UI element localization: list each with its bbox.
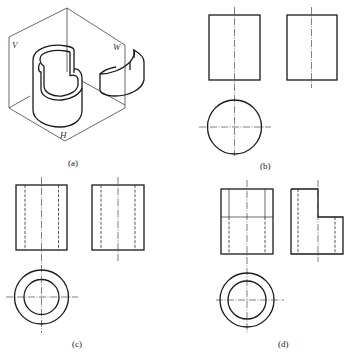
panel-c-three-views: (c) [6,177,144,349]
notched-cylinder [33,45,82,127]
plane-label-v: V [12,40,19,50]
panel-label-c: (c) [72,339,82,349]
panel-label-a: (a) [68,158,78,168]
panel-b-three-views: (b) [199,7,337,171]
side-view [291,189,343,254]
plane-label-h: H [59,130,67,140]
panel-d-three-views: (d) [216,180,343,349]
side-view [287,15,337,80]
panel-a-isometric: V W H (a) [9,8,144,168]
box-floor-right-edge [82,81,125,105]
box-floor-left-edge [9,96,30,108]
panel-label-b: (b) [260,161,271,171]
panel-label-d: (d) [278,339,289,349]
plane-label-w: W [113,42,122,52]
projection-figure: V W H (a) (b) [0,0,349,353]
removed-shell-piece [100,50,144,96]
